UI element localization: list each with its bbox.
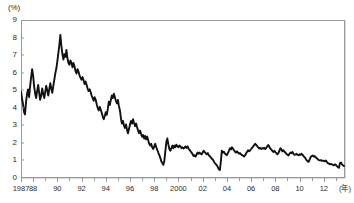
y-tick-mark-1 (21, 160, 24, 161)
x-axis-unit-label: (年) (339, 184, 351, 193)
x-tick-mark-96 (130, 178, 131, 182)
x-tick-mark-08 (275, 178, 276, 182)
chart-figure: (%) 0123456789 (年) 198788909294969820000… (0, 0, 354, 203)
y-tick-mark-8 (21, 37, 24, 38)
x-tick-mark-98 (154, 178, 155, 182)
x-tick-mark-06 (251, 178, 252, 182)
y-tick-label-5: 5 (13, 86, 17, 94)
y-tick-mark-2 (21, 142, 24, 143)
x-tick-label-88: 88 (29, 184, 37, 193)
y-tick-label-6: 6 (13, 69, 17, 77)
x-minor-tick-1991 (69, 178, 70, 181)
x-tick-label-04: 04 (223, 184, 231, 193)
x-minor-tick-2003 (215, 178, 216, 181)
y-tick-label-2: 2 (13, 139, 17, 147)
x-tick-label-02: 02 (199, 184, 207, 193)
x-minor-tick-2013 (336, 178, 337, 181)
x-tick-label-96: 96 (126, 184, 134, 193)
x-tick-label-90: 90 (53, 184, 61, 193)
x-tick-label-2000: 2000 (170, 184, 187, 193)
y-tick-mark-4 (21, 107, 24, 108)
x-tick-label-92: 92 (77, 184, 85, 193)
x-minor-tick-1989 (45, 178, 46, 181)
x-tick-mark-2000 (178, 178, 179, 182)
x-tick-label-08: 08 (271, 184, 279, 193)
y-tick-label-8: 8 (13, 34, 17, 42)
x-minor-tick-1993 (94, 178, 95, 181)
x-minor-tick-2009 (287, 178, 288, 181)
y-tick-label-9: 9 (13, 16, 17, 24)
x-tick-mark-94 (106, 178, 107, 182)
x-tick-mark-92 (82, 178, 83, 182)
x-tick-label-94: 94 (102, 184, 110, 193)
x-tick-label-12: 12 (320, 184, 328, 193)
x-minor-tick-1997 (142, 178, 143, 181)
series-line-long-term-interest-rate (21, 20, 345, 178)
x-minor-tick-2007 (263, 178, 264, 181)
y-tick-mark-6 (21, 72, 24, 73)
y-tick-label-1: 1 (13, 156, 17, 164)
y-tick-label-4: 4 (13, 104, 17, 112)
y-tick-label-0: 0 (13, 174, 17, 182)
x-tick-mark-90 (57, 178, 58, 182)
y-axis: 0123456789 (0, 0, 21, 203)
y-tick-label-3: 3 (13, 121, 17, 129)
x-tick-label-98: 98 (150, 184, 158, 193)
x-tick-mark-12 (324, 178, 325, 182)
y-tick-mark-7 (21, 55, 24, 56)
x-tick-mark-02 (203, 178, 204, 182)
y-tick-mark-5 (21, 90, 24, 91)
x-minor-tick-2001 (191, 178, 192, 181)
x-tick-mark-1987 (21, 178, 22, 182)
x-tick-label-1987: 1987 (13, 184, 30, 193)
y-tick-label-7: 7 (13, 51, 17, 59)
y-tick-mark-3 (21, 125, 24, 126)
x-tick-mark-10 (300, 178, 301, 182)
x-tick-mark-88 (33, 178, 34, 182)
x-tick-mark-04 (227, 178, 228, 182)
x-tick-label-10: 10 (295, 184, 303, 193)
x-minor-tick-2011 (312, 178, 313, 181)
x-tick-label-06: 06 (247, 184, 255, 193)
x-minor-tick-1999 (166, 178, 167, 181)
x-minor-tick-1995 (118, 178, 119, 181)
x-minor-tick-2005 (239, 178, 240, 181)
